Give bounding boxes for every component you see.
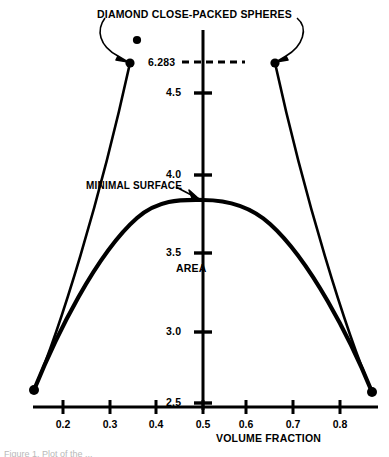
- leader-line-right: [286, 18, 303, 56]
- y-tick-label-4.5: 4.5: [166, 86, 181, 98]
- x-axis-title: VOLUME FRACTION: [216, 432, 321, 444]
- x-tick-label-0.2: 0.2: [56, 418, 71, 430]
- figure-caption: Figure 1. Plot of the ...: [4, 449, 386, 457]
- reference-label-6283: 6.283: [148, 56, 175, 68]
- leader-arrowhead-right: [276, 56, 288, 62]
- leader-line-left: [100, 18, 118, 56]
- y-axis-title: AREA: [176, 262, 207, 274]
- x-tick-label-0.7: 0.7: [286, 418, 301, 430]
- leader-arrowhead-minimal-surface: [189, 190, 199, 199]
- point-lower-right-endpoint: [367, 387, 377, 397]
- y-tick-label-3.0: 3.0: [166, 325, 181, 337]
- x-tick-label-0.4: 0.4: [149, 418, 164, 430]
- series-diamond-right-branch: [275, 63, 372, 392]
- x-tick-label-0.5: 0.5: [196, 418, 211, 430]
- leader-arrowhead-left: [116, 56, 128, 62]
- chart-plot-area: [0, 0, 389, 457]
- point-lower-left-endpoint: [29, 385, 39, 395]
- annotation-minimal-surface: MINIMAL SURFACE: [86, 180, 182, 191]
- series-diamond-left-branch: [34, 63, 130, 390]
- y-tick-label-3.5: 3.5: [166, 246, 181, 258]
- y-tick-label-2.5: 2.5: [166, 396, 181, 408]
- chart-title: DIAMOND CLOSE-PACKED SPHERES: [97, 8, 292, 20]
- x-tick-label-0.6: 0.6: [239, 418, 254, 430]
- x-tick-label-0.3: 0.3: [103, 418, 118, 430]
- x-tick-label-0.8: 0.8: [333, 418, 348, 430]
- figure-canvas: DIAMOND CLOSE-PACKED SPHERES 6.283 4.5 4…: [0, 0, 389, 457]
- point-diamond-left-endpoint: [125, 58, 134, 67]
- point-isolated-upper-dot: [133, 36, 141, 44]
- y-tick-label-4.0: 4.0: [166, 168, 181, 180]
